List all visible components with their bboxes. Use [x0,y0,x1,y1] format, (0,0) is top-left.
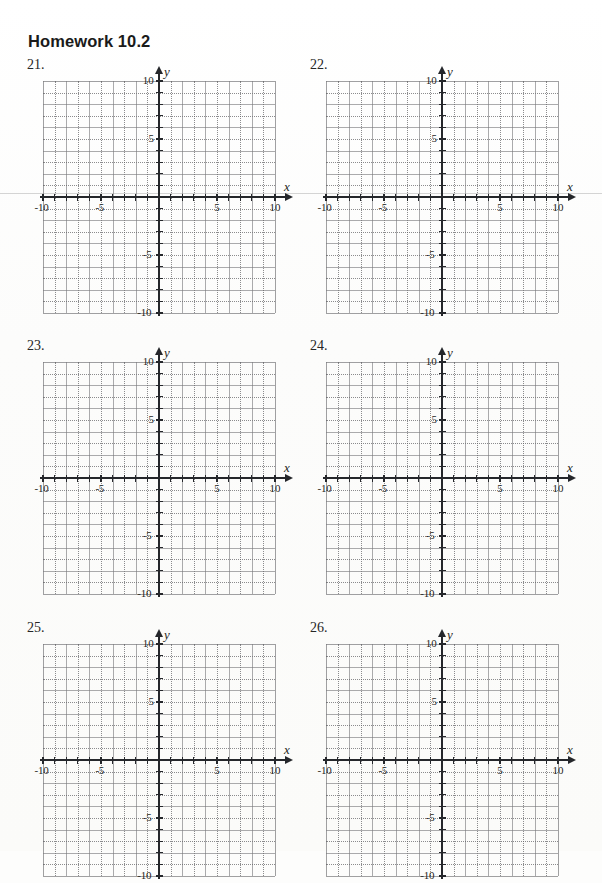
y-axis-tick [439,713,446,714]
y-axis-tick [439,385,446,386]
x-tick-label: -5 [378,764,387,776]
x-axis-tick [205,757,206,764]
x-tick-label: 10 [269,764,280,776]
x-axis-tick [228,757,229,764]
x-axis-tick [395,475,396,482]
y-axis-tick [439,208,446,209]
y-axis-tick [156,875,163,876]
x-axis-tick [372,194,373,201]
y-tick-label: 5 [431,132,437,144]
y-tick-label: 5 [148,132,154,144]
x-axis-tick [407,757,408,764]
x-axis-tick [523,475,524,482]
problem-number: 22. [310,57,328,73]
y-axis-tick [439,138,446,139]
x-axis-tick [476,757,477,764]
x-axis-tick [77,194,78,201]
y-tick-label: -10 [137,869,151,881]
y-axis-tick [439,643,446,644]
x-axis-tick [274,194,275,201]
problem-number: 25. [27,620,45,636]
x-axis-tick [418,757,419,764]
x-axis-tick [534,475,535,482]
y-axis-tick [156,535,163,536]
y-axis-tick [439,678,446,679]
x-tick-label: -10 [35,482,49,494]
y-axis-tick [156,162,163,163]
y-axis-tick [439,150,446,151]
x-tick-label: -5 [95,764,104,776]
y-axis-tick [439,771,446,772]
x-axis-tick [228,194,229,201]
y-axis-arrow-icon [438,347,446,355]
y-axis-tick [439,736,446,737]
x-axis-tick [89,194,90,201]
x-axis-tick [100,194,101,201]
y-axis-tick [439,243,446,244]
y-tick-label: 10 [143,74,154,86]
x-axis-tick [135,194,136,201]
x-axis-tick [274,475,275,482]
y-axis-label: y [447,64,453,80]
x-axis-tick [112,194,113,201]
y-axis-tick [439,512,446,513]
coordinate-plane: xy-10-5510105-5-10 [43,362,301,618]
x-axis-tick [240,194,241,201]
x-tick-label: 5 [497,201,503,213]
x-axis-tick [193,475,194,482]
x-axis-tick [360,194,361,201]
x-axis-tick [170,475,171,482]
y-axis-tick [439,301,446,302]
x-tick-label: -10 [35,764,49,776]
y-axis-tick [439,231,446,232]
x-axis-tick [124,194,125,201]
y-axis-tick [439,864,446,865]
y-axis-label: y [447,627,453,643]
x-axis-tick [263,194,264,201]
y-axis-tick [156,713,163,714]
y-axis-tick [439,655,446,656]
y-axis-tick [156,806,163,807]
x-axis-tick [77,757,78,764]
x-axis-tick [523,194,524,201]
y-axis-tick [439,841,446,842]
x-axis-tick [372,475,373,482]
x-axis-tick [383,757,384,764]
y-axis-tick [156,115,163,116]
y-axis-tick [156,254,163,255]
problem-number: 26. [310,620,328,636]
x-tick-label: -10 [35,201,49,213]
x-axis-tick [523,757,524,764]
y-axis-tick [156,361,163,362]
x-axis-tick [240,475,241,482]
y-axis-tick [156,667,163,668]
y-axis-tick [156,138,163,139]
x-axis-tick [216,757,217,764]
y-axis-tick [439,408,446,409]
y-axis-tick [156,173,163,174]
x-tick-label: 10 [552,482,563,494]
y-axis-tick [156,289,163,290]
y-axis-tick [156,852,163,853]
x-tick-label: -10 [318,201,332,213]
y-axis-arrow-icon [155,347,163,355]
y-axis-tick [439,173,446,174]
y-axis-tick [439,783,446,784]
y-axis-tick [156,454,163,455]
y-tick-label: -5 [426,529,435,541]
y-axis-label: y [164,627,170,643]
x-axis-tick [325,475,326,482]
x-axis-tick [182,757,183,764]
y-axis-tick [439,501,446,502]
y-axis-tick [156,725,163,726]
x-axis-tick [488,757,489,764]
y-axis-tick [156,266,163,267]
y-axis-tick [439,361,446,362]
y-axis-tick [156,794,163,795]
y-axis [158,354,160,597]
y-axis-tick [439,431,446,432]
x-axis-tick [135,475,136,482]
x-axis-tick [430,194,431,201]
y-axis-tick [439,806,446,807]
x-axis-tick [511,475,512,482]
